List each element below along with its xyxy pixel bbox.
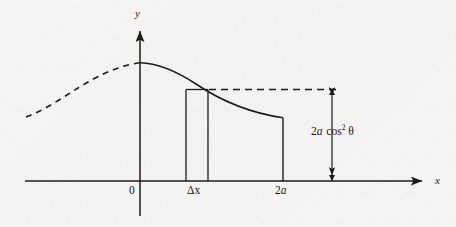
y-axis-label: y: [135, 8, 140, 19]
solid-curve: [140, 63, 283, 118]
plot-svg: [0, 0, 456, 227]
dashed-curve-extension: [26, 63, 140, 117]
figure-canvas: y x 0 Δx 2a 2a cos2 θ: [0, 0, 456, 227]
origin-label: 0: [129, 185, 135, 197]
two-a-italic: a: [281, 184, 287, 196]
annot-italic-a: a: [317, 125, 323, 137]
annot-function: cos: [326, 125, 341, 137]
x-axis-label: x: [435, 175, 440, 186]
delta-x-rectangle: [186, 90, 208, 182]
height-annotation-label: 2a cos2 θ: [311, 126, 354, 138]
delta-x-label: Δx: [187, 185, 200, 197]
two-a-label: 2a: [275, 185, 287, 197]
annot-angle: θ: [348, 125, 354, 137]
annot-exponent: 2: [342, 123, 346, 132]
